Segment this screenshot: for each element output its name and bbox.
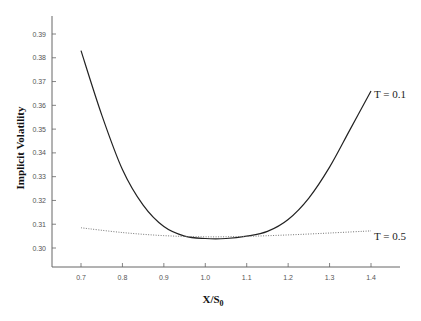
series-line-1 [81,228,371,237]
y-tick-label: 0.30 [32,245,46,252]
axes: 0.300.310.320.330.340.350.360.370.380.39… [32,16,400,281]
x-tick-label: 0.9 [159,274,169,281]
x-tick-label: 0.7 [76,274,86,281]
annotation-t05: T = 0.5 [374,230,406,242]
x-tick-label: 0.8 [118,274,128,281]
series-line-0 [81,51,371,239]
y-tick-label: 0.39 [32,31,46,38]
x-tick-label: 1.2 [283,274,293,281]
x-tick-label: 1.0 [200,274,210,281]
y-tick-label: 0.35 [32,126,46,133]
annotation-t01: T = 0.1 [374,88,406,100]
y-tick-label: 0.36 [32,102,46,109]
y-tick-label: 0.32 [32,197,46,204]
x-tick-label: 1.1 [242,274,252,281]
x-tick-label: 1.3 [325,274,335,281]
y-tick-label: 0.37 [32,78,46,85]
y-tick-label: 0.34 [32,149,46,156]
y-tick-label: 0.31 [32,221,46,228]
series-lines [81,51,371,239]
x-axis-label: X/S0 [202,293,223,308]
y-tick-label: 0.33 [32,173,46,180]
y-axis-label: Implicit Volatility [14,106,26,189]
volatility-chart: 0.300.310.320.330.340.350.360.370.380.39… [0,0,421,321]
y-tick-label: 0.38 [32,54,46,61]
x-tick-label: 1.4 [366,274,376,281]
